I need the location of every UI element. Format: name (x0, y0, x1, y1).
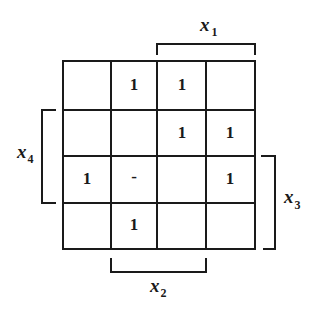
cell-r1-c2: 1 (178, 123, 187, 142)
cell-r3-c1: 1 (130, 215, 139, 234)
karnaugh-map: 1 1 1 1 1 - 1 1 x1 x4 x3 (0, 0, 318, 311)
x2-label: x2 (149, 275, 167, 300)
cell-r1-c3: 1 (226, 123, 235, 142)
x1-bracket-line (157, 44, 255, 55)
x2-bracket-line (111, 258, 206, 272)
x4-label: x4 (16, 141, 34, 166)
x4-bracket-line (42, 110, 56, 203)
x2-bracket: x2 (111, 258, 206, 300)
cell-r0-c2: 1 (178, 75, 187, 94)
x1-label: x1 (199, 14, 218, 39)
x4-bracket: x4 (16, 110, 56, 203)
cell-r2-c0: 1 (83, 169, 92, 188)
x3-bracket: x3 (261, 156, 301, 249)
cell-r2-c3: 1 (226, 169, 235, 188)
x3-label: x3 (283, 186, 301, 212)
cell-r2-c1: - (131, 167, 137, 186)
x3-bracket-line (261, 156, 275, 249)
x1-bracket: x1 (157, 14, 255, 55)
cell-r0-c1: 1 (130, 75, 139, 94)
kmap-grid (63, 61, 255, 249)
kmap-cells: 1 1 1 1 1 - 1 1 (83, 75, 235, 234)
